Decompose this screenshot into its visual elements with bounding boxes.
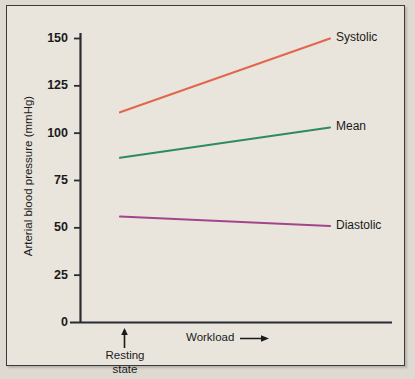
y-tick-label-100: 100 xyxy=(28,126,68,140)
chart-figure: 150 125 100 75 50 25 0 Arterial blood pr… xyxy=(0,0,415,379)
x-axis-title: Workload xyxy=(186,331,234,343)
resting-state-label-line1: Resting xyxy=(90,349,160,361)
series-line-mean xyxy=(120,127,330,157)
y-tick-label-0: 0 xyxy=(28,315,68,329)
series-label-mean: Mean xyxy=(336,119,366,133)
series-line-diastolic xyxy=(120,216,330,225)
resting-state-label-line2: state xyxy=(90,363,160,375)
y-tick-label-150: 150 xyxy=(28,31,68,45)
series-label-diastolic: Diastolic xyxy=(336,218,381,232)
y-tick-label-75: 75 xyxy=(28,173,68,187)
workload-arrow-icon xyxy=(240,335,269,341)
y-tick-label-25: 25 xyxy=(28,268,68,282)
y-tick-label-125: 125 xyxy=(28,78,68,92)
series-label-systolic: Systolic xyxy=(336,30,377,44)
resting-state-arrow-icon xyxy=(121,328,128,348)
y-tick-label-50: 50 xyxy=(28,220,68,234)
y-axis-title: Arterial blood pressure (mmHg) xyxy=(22,86,34,266)
series-line-systolic xyxy=(120,39,330,113)
